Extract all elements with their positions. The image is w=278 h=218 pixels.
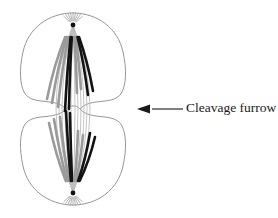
cleavage-furrow-annotation: Cleavage furrow xyxy=(137,100,277,115)
cytokinesis-diagram: Cleavage furrow xyxy=(0,0,278,218)
cleavage-furrow-label: Cleavage furrow xyxy=(186,100,277,115)
arrow-head-icon xyxy=(137,104,150,113)
centrosome-dot xyxy=(71,23,76,28)
centrosome-dot xyxy=(71,191,76,196)
figure-canvas: Cleavage furrow xyxy=(0,0,278,218)
